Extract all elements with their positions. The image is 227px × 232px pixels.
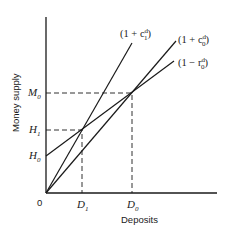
curve-1-plus-c0 — [46, 41, 176, 193]
curve-label-1-minus-r0: (1 − rd0) — [178, 58, 208, 69]
tick-h0: H0 — [29, 150, 40, 161]
curve-1-minus-r0 — [46, 61, 174, 156]
curve-label-1-plus-c0: (1 + cd0) — [178, 35, 209, 46]
tick-h0-sub: 0 — [37, 156, 41, 164]
curve-label-prefix: (1 + c — [178, 34, 203, 45]
curve-label-1-plus-c1: (1 + cd1) — [120, 29, 151, 40]
curve-label-suffix: ) — [206, 34, 210, 45]
tick-h1: H1 — [29, 124, 40, 135]
tick-d0-sub: 0 — [135, 205, 139, 213]
curve-label-suffix: ) — [204, 57, 208, 68]
tick-h1-sub: 1 — [37, 130, 41, 138]
tick-d1-sub: 1 — [85, 205, 89, 213]
tick-h1-base: H — [29, 123, 37, 135]
y-axis-title: Money supply — [10, 73, 21, 132]
tick-d1: D1 — [77, 199, 88, 210]
x-axis-title: Deposits — [121, 215, 158, 225]
tick-m0: M0 — [28, 87, 41, 98]
tick-m0-base: M — [28, 86, 37, 98]
tick-d1-base: D — [77, 198, 85, 210]
curve-label-suffix: ) — [148, 28, 152, 39]
money-supply-diagram: M0 H1 H0 0 D1 D0 Deposits Money supply (… — [0, 0, 227, 232]
origin-label: 0 — [37, 198, 42, 208]
tick-m0-sub: 0 — [37, 93, 41, 101]
curve-label-prefix: (1 − r — [178, 57, 201, 68]
tick-h0-base: H — [29, 149, 37, 161]
curve-1-plus-c1 — [46, 43, 132, 193]
tick-d0-base: D — [127, 198, 135, 210]
tick-d0: D0 — [127, 199, 138, 210]
curve-label-prefix: (1 + c — [120, 28, 145, 39]
